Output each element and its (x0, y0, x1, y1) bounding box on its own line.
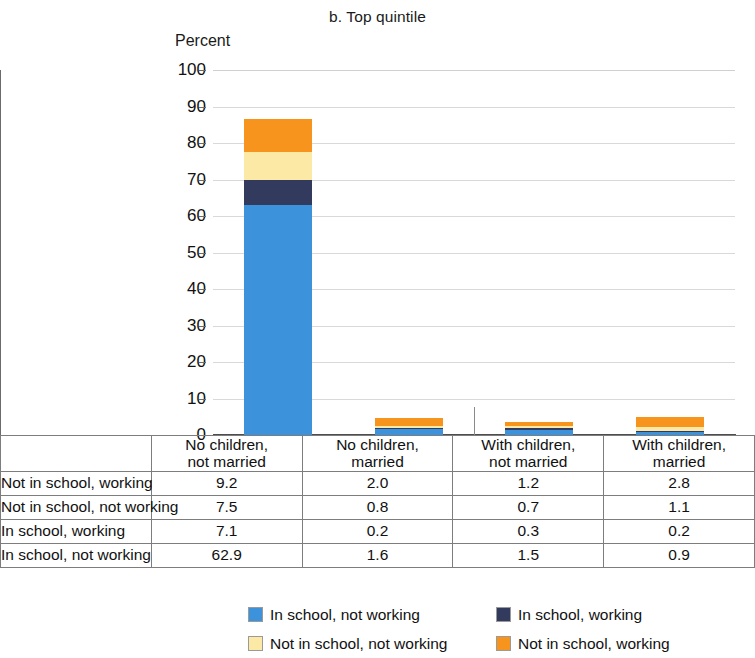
legend-swatch-icon (248, 607, 263, 622)
table-row-label: In school, not working (1, 543, 152, 567)
bar-segment[interactable] (244, 119, 312, 153)
table-body: Not in school, working9.22.01.22.8Not in… (1, 471, 755, 567)
legend-item[interactable]: In school, working (496, 606, 746, 624)
y-axis-line (0, 70, 1, 436)
table-corner-cell (1, 436, 152, 472)
column-header-line: married (303, 453, 453, 470)
column-header-line: With children, (604, 436, 754, 453)
y-axis-tick-labels: 0102030405060708090100 (160, 70, 206, 435)
y-tick-mark-60 (199, 216, 206, 217)
table-row: In school, not working62.91.61.50.9 (1, 543, 755, 567)
column-header-line: not married (453, 453, 603, 470)
bar-column[interactable] (636, 417, 704, 435)
table-cell: 1.1 (604, 495, 755, 519)
table-cell: 0.3 (453, 519, 604, 543)
table-row-label: Not in school, not working (1, 495, 152, 519)
bar-segment[interactable] (244, 152, 312, 179)
table-row-label: Not in school, working (1, 471, 152, 495)
table-cell: 0.8 (302, 495, 453, 519)
table-row: In school, working7.10.20.30.2 (1, 519, 755, 543)
column-header-line: No children, (303, 436, 453, 453)
table-cell: 1.6 (302, 543, 453, 567)
column-header-line: not married (152, 453, 302, 470)
column-header-2: With children,not married (453, 436, 604, 472)
column-header-line: No children, (152, 436, 302, 453)
chart-legend: In school, not workingIn school, working… (248, 600, 748, 658)
table-row-label: In school, working (1, 519, 152, 543)
bar-segment[interactable] (636, 417, 704, 427)
legend-swatch-icon (496, 636, 511, 651)
table-row: Not in school, not working7.50.80.71.1 (1, 495, 755, 519)
legend-item[interactable]: Not in school, working (496, 635, 746, 653)
y-tick-mark-70 (199, 180, 206, 181)
legend-swatch-icon (496, 607, 511, 622)
group-divider (474, 407, 475, 435)
table-row: Not in school, working9.22.01.22.8 (1, 471, 755, 495)
table-cell: 0.2 (604, 519, 755, 543)
legend-label: In school, working (518, 606, 642, 624)
chart-page: b. Top quintile Percent 0102030405060708… (0, 0, 755, 658)
table-cell: 62.9 (151, 543, 302, 567)
y-tick-mark-20 (199, 362, 206, 363)
table-cell: 1.2 (453, 471, 604, 495)
bar-segment[interactable] (244, 205, 312, 435)
table-cell: 7.1 (151, 519, 302, 543)
y-axis-title: Percent (175, 32, 230, 50)
y-tick-mark-80 (199, 143, 206, 144)
legend-label: In school, not working (270, 606, 420, 624)
bar-segment[interactable] (375, 418, 443, 425)
table-cell: 1.5 (453, 543, 604, 567)
y-tick-mark-10 (199, 399, 206, 400)
legend-label: Not in school, not working (270, 635, 447, 653)
bar-column[interactable] (505, 422, 573, 435)
plot-area (213, 70, 735, 435)
column-header-line: With children, (453, 436, 603, 453)
legend-label: Not in school, working (518, 635, 670, 653)
bar-column[interactable] (244, 119, 312, 435)
column-header-0: No children,not married (151, 436, 302, 472)
gridline-100 (213, 70, 735, 71)
legend-item[interactable]: Not in school, not working (248, 635, 496, 653)
table-cell: 0.7 (453, 495, 604, 519)
table-header-row: No children,not married No children,marr… (1, 436, 755, 472)
table-cell: 9.2 (151, 471, 302, 495)
data-table: No children,not married No children,marr… (0, 435, 755, 568)
column-header-1: No children,married (302, 436, 453, 472)
y-tick-mark-90 (199, 107, 206, 108)
table-cell: 2.8 (604, 471, 755, 495)
gridline-90 (213, 107, 735, 108)
legend-swatch-icon (248, 636, 263, 651)
y-tick-mark-40 (199, 289, 206, 290)
y-tick-mark-30 (199, 326, 206, 327)
column-header-line: married (604, 453, 754, 470)
column-header-3: With children,married (604, 436, 755, 472)
y-tick-mark-100 (199, 70, 206, 71)
data-table-wrap: No children,not married No children,marr… (0, 435, 755, 568)
table-cell: 0.2 (302, 519, 453, 543)
bar-column[interactable] (375, 418, 443, 435)
y-tick-mark-50 (199, 253, 206, 254)
table-cell: 2.0 (302, 471, 453, 495)
chart-title: b. Top quintile (0, 8, 755, 26)
table-cell: 0.9 (604, 543, 755, 567)
legend-item[interactable]: In school, not working (248, 606, 496, 624)
bar-segment[interactable] (244, 180, 312, 206)
